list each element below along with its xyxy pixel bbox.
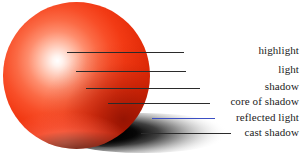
label-cast-shadow: cast shadow xyxy=(244,127,299,138)
label-core-of-shadow: core of shadow xyxy=(230,96,299,107)
leader-line-light xyxy=(76,71,186,72)
label-light: light xyxy=(278,64,299,75)
leader-line-shadow xyxy=(86,88,200,89)
label-highlight: highlight xyxy=(258,45,299,56)
label-reflected-light: reflected light xyxy=(236,112,299,123)
leader-line-highlight xyxy=(67,52,184,53)
label-shadow: shadow xyxy=(265,81,299,92)
sphere-lighting-diagram: highlight light shadow core of shadow re… xyxy=(0,0,303,156)
red-sphere xyxy=(3,2,150,149)
leader-line-core-of-shadow xyxy=(108,103,210,104)
leader-line-cast-shadow xyxy=(141,133,231,134)
leader-line-reflected-light xyxy=(152,118,215,119)
